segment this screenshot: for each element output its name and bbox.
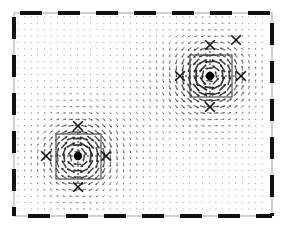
- plot-background: [0, 0, 285, 235]
- figure-root: [0, 0, 285, 235]
- vortex-center-dot[interactable]: [74, 152, 82, 160]
- vortex-center-dot[interactable]: [206, 72, 214, 80]
- vector-field-plot: [0, 0, 285, 235]
